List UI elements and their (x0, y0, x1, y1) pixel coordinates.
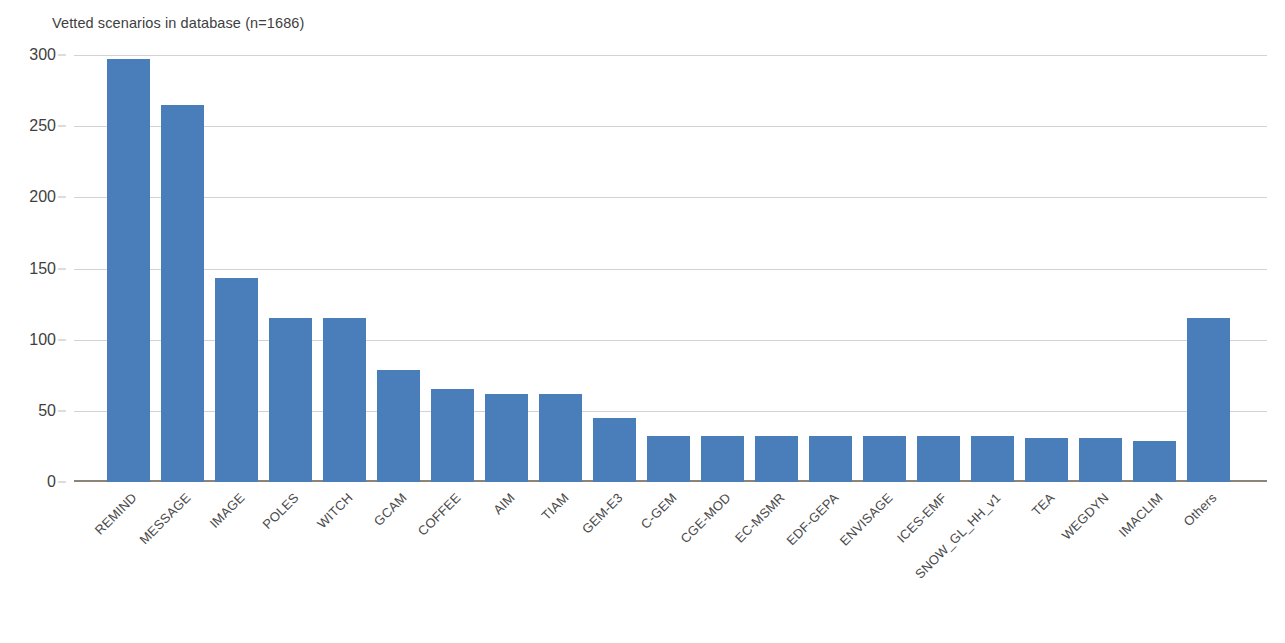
y-tick-label: 250 (29, 117, 56, 135)
x-tick-label: AIM (490, 490, 517, 517)
bar[interactable] (1187, 318, 1230, 482)
y-tick-label: 0 (47, 473, 56, 491)
bar[interactable] (269, 318, 312, 482)
bar[interactable] (593, 418, 636, 482)
bar[interactable] (1025, 438, 1068, 482)
x-tick-label: CGE-MOD (677, 490, 733, 546)
bar[interactable] (485, 394, 528, 482)
y-tick-mark (58, 482, 66, 483)
y-tick-mark (58, 197, 66, 198)
x-tick-label: IMACLIM (1115, 490, 1165, 540)
bar[interactable] (971, 436, 1014, 482)
x-tick-label: Others (1180, 490, 1219, 529)
y-tick-label: 300 (29, 46, 56, 64)
x-tick-label: COFFEE (414, 490, 463, 539)
bar[interactable] (863, 436, 906, 482)
y-tick-mark (58, 268, 66, 269)
bar[interactable] (809, 436, 852, 482)
bar[interactable] (917, 436, 960, 482)
x-tick-label: GEM-E3 (578, 490, 625, 537)
bar[interactable] (1079, 438, 1122, 482)
x-tick-label: WEGDYN (1058, 490, 1111, 543)
x-axis: REMINDMESSAGEIMAGEPOLESWITCHGCAMCOFFEEAI… (74, 486, 1267, 636)
x-tick-label: REMIND (91, 490, 139, 538)
bar[interactable] (431, 389, 474, 482)
y-tick-label: 100 (29, 331, 56, 349)
y-tick-mark (58, 410, 66, 411)
bar[interactable] (539, 394, 582, 482)
x-tick-label: POLES (259, 490, 301, 532)
x-tick-label: TEA (1028, 490, 1057, 519)
bar[interactable] (107, 59, 150, 482)
bar[interactable] (1133, 441, 1176, 482)
x-tick-label: ICES-EMF (893, 490, 949, 546)
plot-area (74, 55, 1267, 482)
y-tick-label: 200 (29, 188, 56, 206)
y-tick-mark (58, 126, 66, 127)
chart-page: Vetted scenarios in database (n=1686) 05… (0, 0, 1285, 643)
bar[interactable] (323, 318, 366, 482)
chart-title: Vetted scenarios in database (n=1686) (52, 15, 304, 31)
x-tick-label: ENVISAGE (836, 490, 895, 549)
y-tick-label: 50 (38, 402, 56, 420)
y-axis: 050100150200250300 (0, 55, 66, 482)
bar[interactable] (701, 436, 744, 482)
bar[interactable] (215, 278, 258, 482)
bar[interactable] (161, 105, 204, 482)
x-tick-label: TIAM (538, 490, 571, 523)
x-tick-label: WITCH (314, 490, 355, 531)
bar[interactable] (755, 436, 798, 482)
bars-layer (74, 55, 1267, 482)
y-tick-mark (58, 339, 66, 340)
x-tick-label: MESSAGE (136, 490, 193, 547)
bar[interactable] (377, 370, 420, 482)
bar[interactable] (647, 436, 690, 482)
y-tick-mark (58, 55, 66, 56)
y-tick-label: 150 (29, 260, 56, 278)
x-tick-label: GCAM (370, 490, 409, 529)
x-tick-label: C-GEM (637, 490, 679, 532)
x-tick-label: EC-MSMR (732, 490, 788, 546)
x-tick-label: EDF-GEPA (783, 490, 841, 548)
x-tick-label: IMAGE (206, 490, 247, 531)
